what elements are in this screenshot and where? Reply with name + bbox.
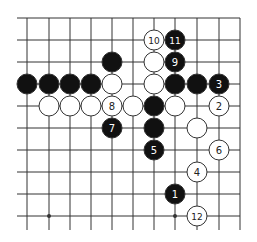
move-number: 8 [109, 101, 115, 112]
black-stone [144, 118, 164, 138]
black-stone [39, 74, 59, 94]
white-stone [60, 96, 80, 116]
black-stone [187, 74, 207, 94]
black-stone [17, 74, 37, 94]
white-stone: 8 [102, 96, 122, 116]
move-number: 11 [169, 36, 180, 46]
star-point [173, 214, 177, 218]
white-stone [123, 96, 143, 116]
black-stone: 1 [165, 184, 185, 204]
move-number: 10 [148, 36, 160, 46]
black-stone [81, 74, 101, 94]
white-stone [39, 96, 59, 116]
black-stone: 3 [209, 74, 229, 94]
move-number: 3 [216, 79, 222, 90]
move-number: 7 [109, 123, 115, 134]
go-board-diagram: 101193827564112 [0, 0, 257, 242]
white-stone [81, 96, 101, 116]
black-stone: 7 [102, 118, 122, 138]
black-stone [165, 74, 185, 94]
move-number: 12 [191, 212, 202, 222]
move-number: 1 [172, 189, 178, 200]
white-stone [165, 96, 185, 116]
white-stone: 2 [209, 96, 229, 116]
black-stone: 11 [165, 30, 185, 50]
move-number: 9 [172, 57, 178, 68]
white-stone: 12 [187, 206, 207, 226]
black-stone: 5 [144, 140, 164, 160]
white-stone: 4 [187, 162, 207, 182]
move-number: 4 [194, 167, 200, 178]
white-stone [187, 118, 207, 138]
white-stone: 6 [209, 140, 229, 160]
black-stone: 9 [165, 52, 185, 72]
white-stone [102, 74, 122, 94]
black-stone [144, 96, 164, 116]
move-number: 5 [151, 145, 157, 156]
black-stone [102, 52, 122, 72]
white-stone [144, 52, 164, 72]
star-point [47, 214, 51, 218]
white-stone [144, 74, 164, 94]
move-number: 2 [216, 101, 222, 112]
white-stone: 10 [144, 30, 164, 50]
move-number: 6 [216, 145, 222, 156]
black-stone [60, 74, 80, 94]
